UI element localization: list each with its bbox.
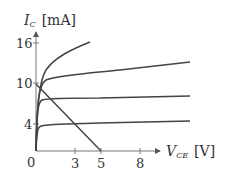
x-tick-label-3: 3 <box>71 156 79 171</box>
x-axis-title: VCE[V] <box>166 143 215 160</box>
x-tick-label-5: 5 <box>97 156 105 171</box>
y-tick-label-16: 16 <box>16 36 33 51</box>
x-tick-label-8: 8 <box>136 156 144 171</box>
load-line <box>36 84 101 151</box>
characteristic-curve-4 <box>36 42 90 151</box>
origin-label: 0 <box>27 155 35 170</box>
characteristic-curve-3 <box>36 62 190 151</box>
y-tick-label-10: 10 <box>16 76 33 91</box>
transistor-characteristic-chart: 16 10 4 0 3 5 8 IC[mA] VCE[V] <box>0 0 240 174</box>
y-axis-title: IC[mA] <box>23 12 76 29</box>
y-tick-label-4: 4 <box>24 117 32 132</box>
